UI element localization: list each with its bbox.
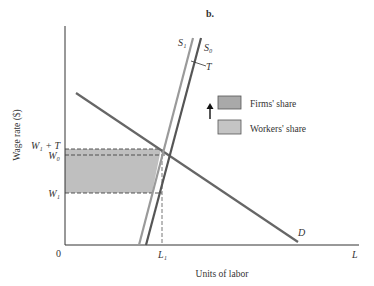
tax-incidence-diagram: S₁ S₀ T D b. W₁ + T W₀ W₁ 0 L₁ L Units o…: [0, 0, 374, 286]
origin-label: 0: [56, 248, 61, 259]
y-tick-w0: W₀: [48, 150, 60, 161]
y-axis-title: Wage rate ($): [12, 109, 23, 160]
legend-label-workers: Workers' share: [250, 124, 306, 134]
s1-label: S₁: [178, 37, 186, 48]
x-end-label: L: [351, 249, 358, 260]
s0-label: S₀: [204, 42, 213, 53]
x-axis-title: Units of labor: [196, 269, 250, 279]
shaded-tax-burden-area: [65, 149, 161, 193]
x-tick-l1: L₁: [157, 249, 167, 260]
legend-swatch-firms: [218, 96, 241, 109]
legend-label-firms: Firms' share: [250, 99, 296, 109]
panel-label: b.: [206, 8, 215, 19]
supply-curve-s0: [146, 38, 201, 245]
y-tick-w1: W₁: [48, 188, 60, 199]
legend-swatch-workers: [218, 120, 241, 134]
up-arrow-icon: [207, 103, 214, 119]
demand-label: D: [297, 227, 306, 238]
tax-label: T: [206, 61, 213, 72]
